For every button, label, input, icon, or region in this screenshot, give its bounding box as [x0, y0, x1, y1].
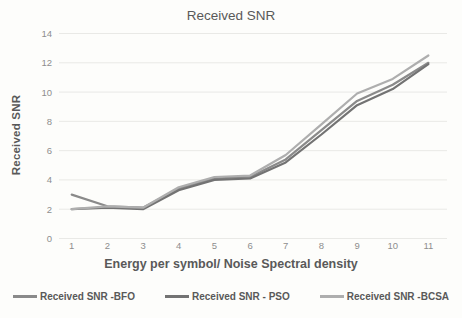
legend-label-bcsa: Received SNR -BCSA — [347, 291, 449, 302]
y-tick-label-14: 14 — [41, 28, 52, 39]
legend-label-pso: Received SNR - PSO — [192, 291, 290, 302]
x-tick-label-5: 5 — [212, 240, 217, 251]
legend-line-swatch-bfo — [13, 295, 37, 298]
y-tick-label-0: 0 — [47, 233, 52, 244]
x-tick-label-11: 11 — [423, 240, 433, 251]
y-tick-label-10: 10 — [41, 87, 52, 98]
x-tick-label-8: 8 — [319, 240, 324, 251]
x-tick-label-7: 7 — [283, 240, 288, 251]
legend: Received SNR -BFO Received SNR - PSO Rec… — [0, 291, 462, 302]
legend-item-pso: Received SNR - PSO — [165, 291, 290, 302]
y-tick-label-2: 2 — [47, 204, 52, 215]
y-tick-label-6: 6 — [47, 145, 52, 156]
legend-line-swatch-bcsa — [320, 295, 344, 298]
x-axis-label: Energy per symbol/ Noise Spectral densit… — [0, 257, 462, 271]
series-line-0 — [72, 63, 429, 208]
legend-item-bfo: Received SNR -BFO — [13, 291, 135, 302]
x-tick-label-9: 9 — [354, 240, 359, 251]
series-line-2 — [72, 56, 429, 210]
y-tick-label-12: 12 — [41, 57, 52, 68]
legend-line-swatch-pso — [165, 295, 189, 298]
x-tick-label-2: 2 — [105, 240, 110, 251]
plot-area: 024681012141234567891011 — [0, 0, 462, 256]
chart-figure: Received SNR Received SNR 02468101214123… — [0, 0, 462, 318]
legend-label-bfo: Received SNR -BFO — [40, 291, 135, 302]
y-tick-label-4: 4 — [47, 174, 52, 185]
x-tick-label-4: 4 — [176, 240, 181, 251]
x-tick-label-1: 1 — [69, 240, 74, 251]
x-tick-label-10: 10 — [387, 240, 398, 251]
legend-item-bcsa: Received SNR -BCSA — [320, 291, 449, 302]
x-tick-label-3: 3 — [140, 240, 145, 251]
y-tick-label-8: 8 — [47, 116, 52, 127]
x-tick-label-6: 6 — [247, 240, 252, 251]
